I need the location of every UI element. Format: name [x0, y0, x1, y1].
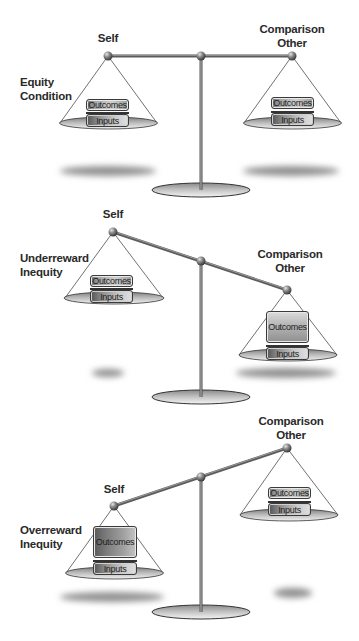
pivot-ball [109, 228, 118, 237]
scale-pole [200, 56, 203, 190]
shadow [243, 166, 339, 176]
outcomes-box-other-large: Outcomes [266, 311, 309, 343]
comparison-other-label: Comparison Other [259, 22, 324, 50]
shadow [60, 592, 164, 602]
pivot-ball [283, 286, 292, 295]
inputs-box-self: Inputs [86, 114, 129, 127]
shadow [92, 369, 124, 377]
outcomes-box-self: Outcomes [86, 99, 129, 111]
scale-pole [200, 477, 203, 612]
outcomes-box-other: Outcomes [268, 487, 311, 499]
shadow [236, 368, 336, 378]
comparison-other-label: Comparison Other [257, 247, 322, 275]
shadow [274, 588, 312, 598]
outcomes-box-self-large: Outcomes [93, 526, 137, 558]
pivot-ball [197, 52, 206, 61]
pivot-ball [283, 444, 292, 453]
condition-label-underreward: Underreward Inequity [20, 251, 89, 279]
inputs-box-other: Inputs [266, 347, 309, 360]
inputs-box-self: Inputs [90, 290, 133, 303]
inputs-box-other: Inputs [268, 503, 311, 516]
pivot-ball [288, 52, 297, 61]
scale-pole [200, 261, 203, 397]
self-label: Self [104, 482, 124, 496]
self-label: Self [98, 31, 118, 45]
pivot-ball [197, 473, 206, 482]
pivot-ball [104, 52, 113, 61]
outcomes-box-other: Outcomes [271, 97, 314, 109]
inputs-box-other: Inputs [271, 113, 314, 126]
pivot-ball [110, 502, 119, 511]
equity-theory-diagram: Self Comparison Other Equity Condition O… [0, 0, 359, 641]
comparison-other-label: Comparison Other [258, 414, 323, 442]
condition-label-equity: Equity Condition [20, 75, 72, 103]
shadow [60, 166, 156, 176]
outcomes-box-self: Outcomes [90, 275, 133, 287]
condition-label-overreward: Overreward Inequity [20, 523, 82, 551]
self-label: Self [103, 207, 123, 221]
pivot-ball [197, 257, 206, 266]
inputs-box-self: Inputs [93, 562, 137, 575]
